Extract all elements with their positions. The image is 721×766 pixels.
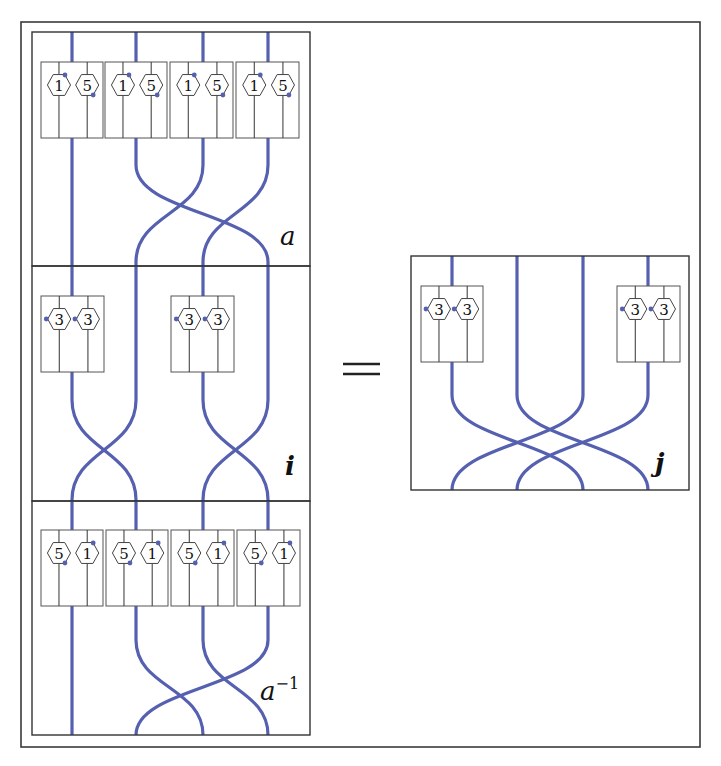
coupon-box: 33: [617, 286, 680, 362]
marker-dot: [288, 541, 293, 546]
hexagon-label: 5: [212, 77, 222, 95]
hexagon-label: 5: [119, 545, 129, 563]
marker-dot: [452, 307, 457, 312]
right-equation-side: 3333j: [411, 256, 689, 490]
coupon-box: 15: [236, 62, 299, 138]
hexagon-label: 3: [184, 311, 194, 329]
panel-label: j: [650, 448, 665, 478]
hexagon-label: 3: [434, 301, 444, 319]
marker-dot: [258, 73, 263, 78]
coupon-box: 15: [41, 62, 103, 138]
hexagon-label: 1: [279, 545, 289, 563]
panel-i: 3333i: [32, 266, 310, 501]
marker-dot: [424, 307, 429, 312]
left-equation-side: 15151515a3333i51515151a−1: [32, 32, 310, 735]
marker-dot: [203, 317, 208, 322]
marker-dot: [73, 317, 78, 322]
coupon-box: 33: [421, 286, 483, 362]
hexagon-label: 1: [183, 77, 193, 95]
box-frame: [41, 296, 104, 372]
hexagon-label: 3: [630, 301, 640, 319]
hexagon-label: 5: [82, 77, 92, 95]
hexagon-label: 5: [184, 545, 194, 563]
coupon-box: 15: [170, 62, 233, 138]
coupon-box: 51: [41, 530, 103, 606]
box-frame: [171, 296, 234, 372]
hexagon-label: 5: [146, 77, 156, 95]
hexagon-label: 1: [118, 77, 128, 95]
hexagon-label: 5: [54, 545, 64, 563]
panel-label-superscript: −1: [276, 674, 300, 693]
marker-dot: [193, 561, 198, 566]
hexagon-label: 3: [659, 301, 669, 319]
marker-dot: [155, 93, 160, 98]
panel-a: 15151515a: [32, 32, 310, 266]
marker-dot: [620, 307, 625, 312]
marker-dot: [156, 541, 161, 546]
box-frame: [421, 286, 483, 362]
marker-dot: [127, 73, 132, 78]
coupon-box: 51: [171, 530, 234, 606]
hexagon-label: 1: [54, 77, 64, 95]
marker-dot: [91, 93, 96, 98]
marker-dot: [222, 541, 227, 546]
panel-label: a−1: [260, 674, 299, 706]
hexagon-label: 3: [462, 301, 472, 319]
marker-dot: [287, 93, 292, 98]
marker-dot: [63, 561, 68, 566]
panel-a_inv: 51515151a−1: [32, 501, 310, 735]
panel-label: a: [280, 221, 296, 251]
marker-dot: [63, 73, 68, 78]
marker-dot: [649, 307, 654, 312]
hexagon-label: 5: [278, 77, 288, 95]
hexagon-label: 1: [82, 545, 92, 563]
coupon-box: 15: [105, 62, 167, 138]
hexagon-label: 5: [250, 545, 260, 563]
marker-dot: [192, 73, 197, 78]
hexagon-label: 3: [54, 311, 64, 329]
panel-j: 3333j: [411, 256, 689, 490]
hexagon-label: 1: [213, 545, 223, 563]
hexagon-label: 3: [83, 311, 93, 329]
box-frame: [236, 62, 299, 138]
marker-dot: [91, 541, 96, 546]
coupon-box: 51: [106, 530, 168, 606]
hexagon-label: 1: [249, 77, 259, 95]
marker-dot: [174, 317, 179, 322]
box-frame: [617, 286, 680, 362]
diagram-canvas: 15151515a3333i51515151a−1 3333j: [0, 0, 721, 766]
coupon-box: 33: [171, 296, 234, 372]
marker-dot: [44, 317, 49, 322]
panel-label: i: [285, 451, 295, 481]
hexagon-label: 1: [147, 545, 157, 563]
equals-sign: [343, 364, 380, 374]
coupon-box: 51: [237, 530, 300, 606]
box-frame: [41, 62, 103, 138]
marker-dot: [128, 561, 133, 566]
marker-dot: [259, 561, 264, 566]
box-frame: [105, 62, 167, 138]
coupon-box: 33: [41, 296, 104, 372]
box-frame: [170, 62, 233, 138]
marker-dot: [221, 93, 226, 98]
hexagon-label: 3: [213, 311, 223, 329]
